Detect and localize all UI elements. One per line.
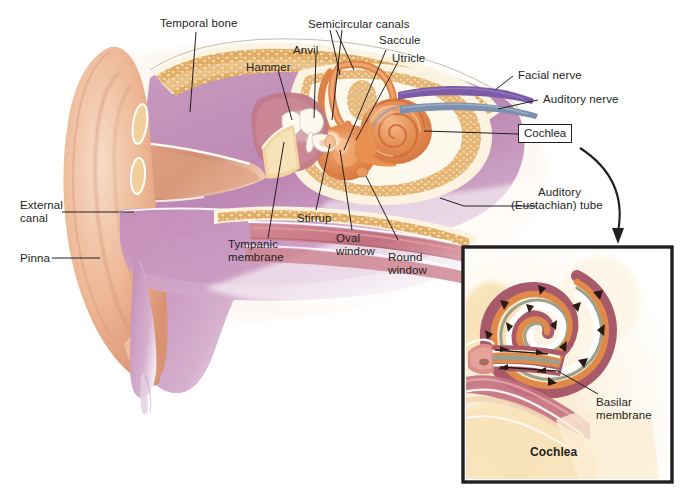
label-auditory-tube-line1: Auditory	[538, 186, 581, 200]
label-round-window-line1: Round	[388, 251, 422, 265]
label-external-canal-line2: canal	[20, 212, 48, 226]
label-semicircular-canals: Semicircular canals	[308, 18, 410, 32]
label-pinna: Pinna	[20, 252, 50, 266]
callout-box-cochlea: Cochlea	[518, 124, 572, 143]
label-basilar-membrane-line1: Basilar	[596, 396, 632, 410]
label-tympanic-membrane-line1: Tympanic	[228, 238, 278, 252]
label-round-window-line2: window	[388, 264, 427, 278]
inset-caption-cochlea: Cochlea	[530, 446, 577, 460]
label-oval-window-line2: window	[336, 245, 375, 259]
label-tympanic-membrane-line2: membrane	[228, 251, 284, 265]
leader-facial-nerve	[495, 76, 513, 90]
label-utricle: Utricle	[392, 52, 425, 66]
label-external-canal-line1: External	[20, 199, 63, 213]
label-hammer: Hammer	[246, 61, 291, 75]
label-saccule: Saccule	[379, 34, 421, 48]
label-anvil: Anvil	[293, 44, 318, 58]
round-window	[356, 167, 368, 177]
oval-window	[325, 136, 335, 149]
label-auditory-tube-line2: (Eustachian) tube	[511, 199, 603, 213]
figure-canvas: Temporal bone Semicircular canals Anvil …	[0, 0, 681, 490]
label-oval-window-line1: Oval	[336, 232, 360, 246]
callout-arrow	[580, 148, 624, 244]
label-temporal-bone: Temporal bone	[160, 17, 237, 31]
label-auditory-nerve: Auditory nerve	[543, 93, 619, 107]
label-stirrup: Stirrup	[297, 212, 332, 226]
label-facial-nerve: Facial nerve	[518, 69, 582, 83]
label-basilar-membrane-line2: membrane	[596, 409, 652, 423]
